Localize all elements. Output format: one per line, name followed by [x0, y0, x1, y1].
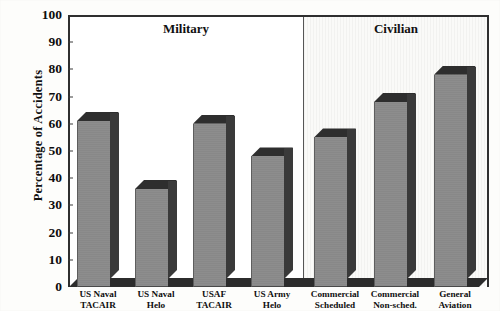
bar-front-face: [135, 189, 168, 287]
bar[interactable]: [135, 180, 177, 287]
bar-side-face: [347, 129, 356, 279]
x-axis-tick-label-line1: General: [439, 289, 471, 299]
bar-chart: Percentage of Accidents 1009080706050403…: [0, 0, 500, 311]
bars-layer: [0, 0, 500, 311]
bar[interactable]: [251, 147, 293, 287]
x-axis-tick-label: GeneralAviation: [415, 289, 495, 311]
bar-side-face: [407, 94, 416, 279]
bar[interactable]: [434, 66, 476, 287]
bar-front-face: [374, 102, 407, 287]
bar-front-face: [77, 121, 110, 287]
bar-front-face: [434, 75, 467, 287]
x-axis-tick-label-line1: US Naval: [79, 289, 116, 299]
bar-side-face: [110, 113, 119, 279]
bar-side-face: [226, 116, 235, 279]
bar[interactable]: [193, 115, 235, 287]
bar-front-face: [193, 124, 226, 287]
bar[interactable]: [77, 112, 119, 287]
x-axis-tick-label-line1: Commercial: [311, 289, 359, 299]
bar-front-face: [251, 156, 284, 287]
bar-side-face: [168, 181, 177, 279]
x-axis-tick-label-line1: US Army: [254, 289, 291, 299]
bar-front-face: [314, 137, 347, 287]
bar-side-face: [284, 148, 293, 279]
x-axis-tick-label-line2: Aviation: [415, 300, 495, 311]
bar-side-face: [467, 67, 476, 279]
bar[interactable]: [314, 128, 356, 287]
x-axis-tick-label-line1: US Naval: [137, 289, 174, 299]
bar[interactable]: [374, 93, 416, 287]
x-axis-tick-label-line1: USAF: [202, 289, 226, 299]
x-axis-tick-label-line1: Commercial: [371, 289, 419, 299]
